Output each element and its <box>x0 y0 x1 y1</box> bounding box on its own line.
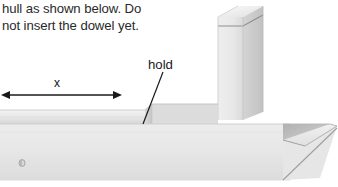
boat-hull-illustration: x hold <box>0 0 338 187</box>
hull-deck <box>0 110 145 124</box>
superstructure-front-face <box>218 17 243 120</box>
hold-label: hold <box>148 57 173 72</box>
x-dimension: x <box>10 76 113 95</box>
hull-body <box>0 124 315 180</box>
figure-root: hull as shown below. Do not insert the d… <box>0 0 338 187</box>
hull-front-face <box>0 124 315 180</box>
superstructure-block <box>218 6 263 120</box>
x-dimension-label: x <box>54 76 60 90</box>
bow-point <box>283 124 337 180</box>
superstructure-side-face <box>243 6 263 120</box>
wood-knot-dot <box>19 160 25 167</box>
knot-ellipse <box>19 160 25 167</box>
